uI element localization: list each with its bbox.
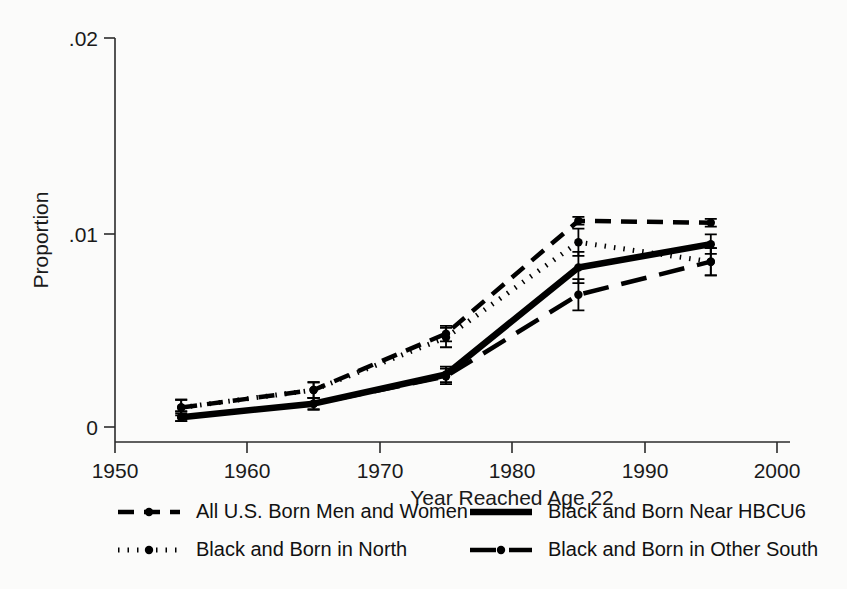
y-axis-ticks: [104, 38, 115, 427]
y-tick-label-0.01: .01: [69, 223, 98, 246]
x-tick-label-2000: 2000: [754, 459, 801, 482]
x-tick-label-1990: 1990: [622, 459, 669, 482]
data-point: [177, 413, 185, 421]
data-point: [309, 399, 317, 407]
legend-label: All U.S. Born Men and Women: [196, 500, 468, 522]
data-point: [707, 219, 715, 227]
data-point: [574, 217, 582, 225]
x-tick-label-1950: 1950: [92, 459, 139, 482]
data-point: [707, 257, 715, 265]
data-point: [177, 403, 185, 411]
x-tick-label-1960: 1960: [224, 459, 271, 482]
data-point: [442, 333, 450, 341]
legend-label: Black and Born in North: [196, 538, 407, 560]
data-point: [574, 238, 582, 246]
legend-key-marker: [145, 508, 153, 516]
chart-figure: .02 .01 0 1950 1960 1970 1980 1990 2000 …: [0, 0, 847, 589]
legend-label: Black and Born in Other South: [548, 538, 818, 560]
data-point: [442, 372, 450, 380]
y-tick-label-0: 0: [86, 416, 98, 439]
chart-legend: All U.S. Born Men and WomenBlack and Bor…: [118, 500, 818, 560]
y-tick-label-0.02: .02: [69, 27, 98, 50]
x-axis-ticks: [115, 442, 777, 453]
x-tick-label-1970: 1970: [357, 459, 404, 482]
data-point: [309, 386, 317, 394]
data-point: [574, 263, 582, 271]
legend-label: Black and Born Near HBCU6: [548, 500, 806, 522]
y-axis-title: Proportion: [29, 192, 52, 289]
data-point: [707, 240, 715, 248]
x-tick-label-1980: 1980: [489, 459, 536, 482]
chart-canvas: .02 .01 0 1950 1960 1970 1980 1990 2000 …: [0, 0, 847, 589]
series-layer: [175, 217, 717, 422]
legend-key-marker: [145, 546, 153, 554]
data-point: [574, 291, 582, 299]
legend-key-marker: [497, 546, 505, 554]
